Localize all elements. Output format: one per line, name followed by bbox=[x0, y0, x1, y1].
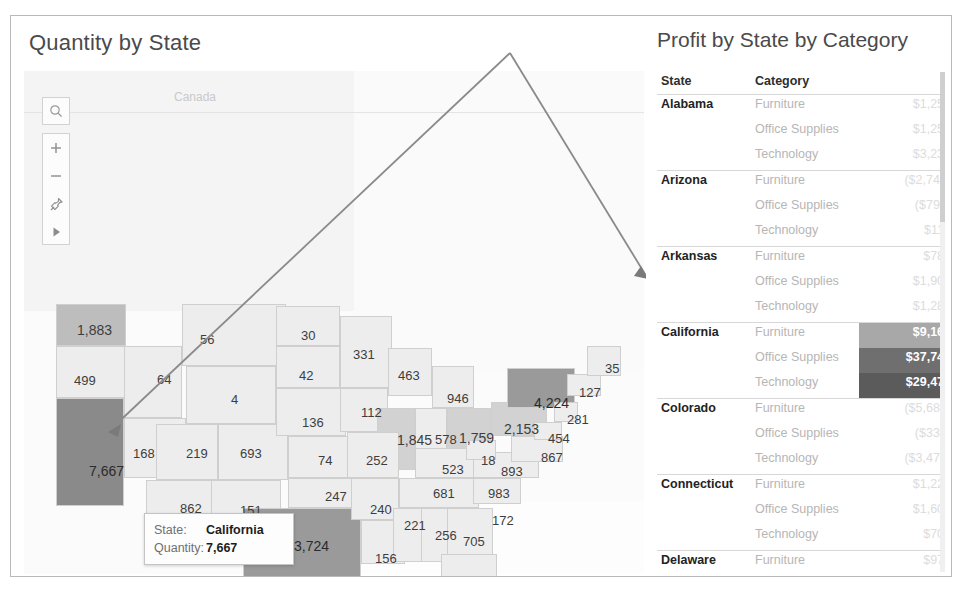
map-label-alabama[interactable]: 256 bbox=[435, 528, 457, 543]
map-label-georgia[interactable]: 705 bbox=[463, 534, 485, 549]
state-shape-florida[interactable] bbox=[441, 554, 497, 576]
table-row[interactable]: Office Supplies$1,258 bbox=[657, 120, 945, 145]
header-value bbox=[859, 72, 945, 95]
cell-profit-value: ($796) bbox=[859, 196, 945, 221]
map-label-north-carolina[interactable]: 893 bbox=[501, 464, 523, 479]
table-scroll-area[interactable]: State Category AlabamaFurniture$1,251Off… bbox=[657, 72, 945, 572]
map-label-montana[interactable]: 56 bbox=[200, 332, 214, 347]
map-label-iowa[interactable]: 112 bbox=[361, 405, 382, 420]
tooltip-state-value: California bbox=[206, 521, 264, 539]
zoom-out-button[interactable] bbox=[43, 162, 69, 190]
map-label-delaware[interactable]: 172 bbox=[492, 513, 514, 528]
cell-state bbox=[657, 373, 751, 399]
table-row[interactable]: Office Supplies($333) bbox=[657, 424, 945, 449]
map-label-new-jersey[interactable]: 281 bbox=[567, 412, 589, 427]
cell-profit-value: $113 bbox=[859, 221, 945, 247]
map-label-virginia[interactable]: 867 bbox=[541, 450, 563, 465]
table-row[interactable]: Technology$701 bbox=[657, 525, 945, 551]
map-divider bbox=[24, 112, 644, 113]
pin-fix-button[interactable] bbox=[43, 190, 69, 218]
map-label-utah[interactable]: 219 bbox=[186, 446, 208, 461]
table-row[interactable]: Office Supplies($796) bbox=[657, 196, 945, 221]
map-label-nevada[interactable]: 168 bbox=[133, 446, 155, 461]
map-label-north-dakota[interactable]: 30 bbox=[301, 328, 315, 343]
map-label-louisiana[interactable]: 156 bbox=[375, 551, 397, 566]
table-row[interactable]: Technology($3,472) bbox=[657, 449, 945, 475]
map-label-oregon[interactable]: 499 bbox=[74, 373, 96, 388]
cell-state: California bbox=[657, 323, 751, 349]
map-label-south-carolina[interactable]: 983 bbox=[488, 486, 510, 501]
map-label-minnesota[interactable]: 331 bbox=[353, 347, 375, 362]
cell-state: Arkansas bbox=[657, 247, 751, 273]
cell-profit-value: ($333) bbox=[859, 424, 945, 449]
map-label-pennsylvania[interactable]: 2,153 bbox=[504, 421, 539, 437]
header-category[interactable]: Category bbox=[751, 72, 859, 95]
state-shape-idaho[interactable] bbox=[124, 346, 182, 418]
map-label-west-virginia[interactable]: 18 bbox=[481, 453, 495, 468]
play-expand-button[interactable] bbox=[43, 218, 69, 246]
cell-category: Furniture bbox=[751, 551, 859, 573]
table-row[interactable]: Office Supplies$37,748 bbox=[657, 348, 945, 373]
table-scrollbar[interactable] bbox=[940, 72, 945, 572]
table-row[interactable]: ConnecticutFurniture$1,225 bbox=[657, 475, 945, 501]
table-row[interactable]: AlabamaFurniture$1,251 bbox=[657, 95, 945, 121]
cell-category: Office Supplies bbox=[751, 120, 859, 145]
map-label-massachusetts[interactable]: 127 bbox=[579, 385, 601, 400]
table-scrollbar-thumb[interactable] bbox=[940, 72, 945, 222]
map-label-indiana[interactable]: 578 bbox=[435, 432, 457, 447]
map-label-tennessee[interactable]: 681 bbox=[433, 486, 455, 501]
map-label-maryland[interactable]: 454 bbox=[548, 431, 570, 446]
header-state[interactable]: State bbox=[657, 72, 751, 95]
state-shape-california[interactable] bbox=[56, 398, 124, 506]
table-row[interactable]: Office Supplies$1,604 bbox=[657, 500, 945, 525]
map-label-texas[interactable]: 3,724 bbox=[294, 538, 329, 554]
map-label-nebraska[interactable]: 136 bbox=[302, 415, 324, 430]
map-label-california[interactable]: 7,667 bbox=[89, 463, 124, 479]
cell-profit-value: $701 bbox=[859, 525, 945, 551]
table-row[interactable]: DelawareFurniture$971 bbox=[657, 551, 945, 573]
map-label-arkansas[interactable]: 240 bbox=[370, 502, 392, 517]
table-row[interactable]: Technology$1,281 bbox=[657, 297, 945, 323]
map-label-illinois[interactable]: 1,845 bbox=[397, 432, 432, 448]
table-row[interactable]: Office Supplies$1,900 bbox=[657, 272, 945, 297]
map-label-oklahoma[interactable]: 247 bbox=[325, 489, 347, 504]
map-zoom-toolbar bbox=[42, 133, 70, 245]
state-shape-oregon[interactable] bbox=[56, 346, 126, 398]
map-label-kansas[interactable]: 74 bbox=[318, 453, 332, 468]
map-label-vermont-nh[interactable]: 35 bbox=[605, 361, 619, 376]
table-row[interactable]: Technology$3,236 bbox=[657, 145, 945, 171]
map-label-wyoming[interactable]: 4 bbox=[231, 392, 238, 407]
map-label-ohio[interactable]: 1,759 bbox=[459, 430, 494, 446]
map-label-missouri[interactable]: 252 bbox=[366, 453, 388, 468]
cell-state bbox=[657, 500, 751, 525]
tooltip-quantity-value: 7,667 bbox=[206, 539, 237, 557]
map-label-kentucky[interactable]: 523 bbox=[442, 462, 464, 477]
map-label-idaho[interactable]: 64 bbox=[157, 372, 171, 387]
cell-category: Office Supplies bbox=[751, 348, 859, 373]
plus-icon bbox=[49, 141, 63, 155]
table-row[interactable]: ArizonaFurniture($2,745) bbox=[657, 171, 945, 197]
tooltip-quantity-label: Quantity: bbox=[154, 539, 206, 557]
table-row[interactable]: ColoradoFurniture($5,686) bbox=[657, 399, 945, 425]
table-row[interactable]: CaliforniaFurniture$9,163 bbox=[657, 323, 945, 349]
play-icon bbox=[49, 225, 63, 239]
map-label-washington[interactable]: 1,883 bbox=[77, 322, 112, 338]
map-search-button[interactable] bbox=[42, 97, 70, 125]
table-row[interactable]: Technology$113 bbox=[657, 221, 945, 247]
zoom-in-button[interactable] bbox=[43, 134, 69, 162]
cell-profit-value: ($3,472) bbox=[859, 449, 945, 475]
map-label-south-dakota[interactable]: 42 bbox=[299, 368, 313, 383]
map-label-michigan[interactable]: 946 bbox=[447, 391, 469, 406]
state-shape-montana[interactable] bbox=[182, 304, 286, 366]
table-row[interactable]: ArkansasFurniture$781 bbox=[657, 247, 945, 273]
cell-state bbox=[657, 424, 751, 449]
table-row[interactable]: Technology$29,470 bbox=[657, 373, 945, 399]
cell-state: Alabama bbox=[657, 95, 751, 121]
map-label-colorado[interactable]: 693 bbox=[240, 446, 262, 461]
map-label-new-york[interactable]: 4,224 bbox=[534, 395, 569, 411]
map-label-mississippi[interactable]: 221 bbox=[404, 518, 426, 533]
cell-profit-value: $1,281 bbox=[859, 297, 945, 323]
map-label-wisconsin[interactable]: 463 bbox=[398, 368, 420, 383]
cell-state bbox=[657, 449, 751, 475]
cell-category: Technology bbox=[751, 373, 859, 399]
